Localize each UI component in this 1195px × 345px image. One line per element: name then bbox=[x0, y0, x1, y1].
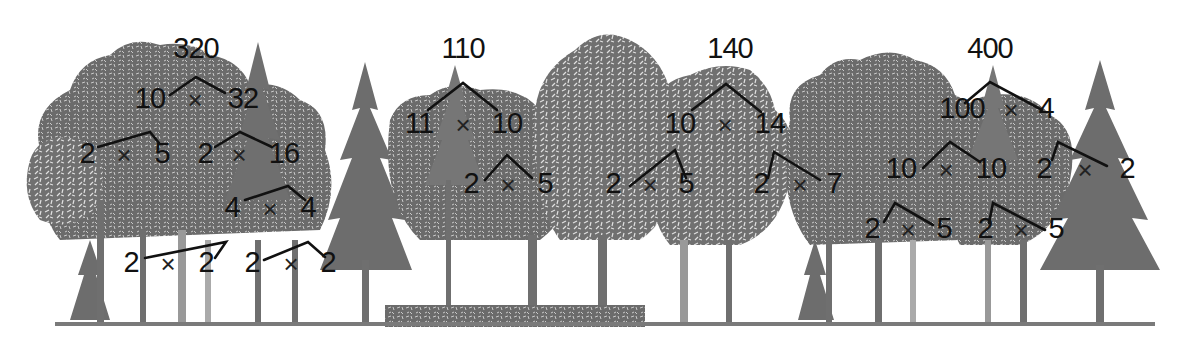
factor-node: 2 bbox=[1036, 154, 1051, 183]
factor-node: 2 bbox=[463, 169, 478, 198]
factor-node: 2 bbox=[79, 139, 94, 168]
multiply-sign: × bbox=[1003, 97, 1018, 123]
factor-node: 5 bbox=[1048, 214, 1063, 243]
factor-tree-root: 140 bbox=[707, 34, 752, 63]
factor-node: 7 bbox=[826, 169, 841, 198]
multiply-sign: × bbox=[116, 142, 131, 168]
factor-tree-root: 320 bbox=[173, 34, 218, 63]
factor-node: 10 bbox=[492, 109, 522, 138]
multiply-sign: × bbox=[900, 217, 915, 243]
multiply-sign: × bbox=[938, 157, 953, 183]
multiply-sign: × bbox=[262, 196, 277, 222]
ground-line bbox=[55, 322, 1155, 326]
multiply-sign: × bbox=[792, 172, 807, 198]
factor-node: 5 bbox=[678, 169, 693, 198]
factor-node: 10 bbox=[135, 84, 165, 113]
multiply-sign: × bbox=[642, 172, 657, 198]
factor-node: 14 bbox=[755, 109, 785, 138]
factor-node: 5 bbox=[154, 139, 169, 168]
factor-node: 2 bbox=[244, 248, 259, 277]
factor-node: 2 bbox=[198, 248, 213, 277]
multiply-sign: × bbox=[500, 172, 515, 198]
factor-node: 4 bbox=[1038, 94, 1053, 123]
multiply-sign: × bbox=[187, 87, 202, 113]
factor-node: 10 bbox=[886, 154, 916, 183]
factor-tree-root: 400 bbox=[967, 34, 1012, 63]
factor-node: 2 bbox=[197, 139, 212, 168]
factor-node: 4 bbox=[300, 193, 315, 222]
factor-node: 2 bbox=[1119, 154, 1134, 183]
multiply-sign: × bbox=[160, 251, 175, 277]
factor-node: 11 bbox=[405, 109, 433, 138]
factor-tree-root: 110 bbox=[441, 34, 484, 63]
multiply-sign: × bbox=[717, 112, 732, 138]
factor-node: 2 bbox=[977, 214, 992, 243]
factor-node: 4 bbox=[224, 193, 239, 222]
factor-node: 16 bbox=[269, 139, 299, 168]
factor-node: 5 bbox=[537, 169, 552, 198]
factor-node: 10 bbox=[665, 109, 695, 138]
multiply-sign: × bbox=[1077, 157, 1092, 183]
factor-node: 10 bbox=[976, 154, 1006, 183]
factor-node: 2 bbox=[320, 248, 335, 277]
factor-node: 2 bbox=[605, 169, 620, 198]
factor-node: 2 bbox=[864, 214, 879, 243]
multiply-sign: × bbox=[231, 142, 246, 168]
multiply-sign: × bbox=[455, 112, 470, 138]
factor-node: 5 bbox=[936, 214, 951, 243]
factor-node: 32 bbox=[228, 84, 258, 113]
multiply-sign: × bbox=[1013, 217, 1028, 243]
factor-node: 2 bbox=[123, 248, 138, 277]
factor-node: 100 bbox=[939, 94, 984, 123]
factor-node: 2 bbox=[753, 169, 768, 198]
multiply-sign: × bbox=[283, 251, 298, 277]
